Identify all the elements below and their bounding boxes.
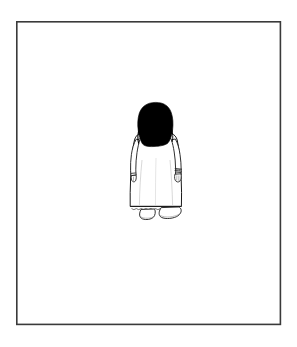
illustration-canvas	[0, 0, 297, 347]
hair	[138, 102, 173, 146]
left-hand	[131, 175, 136, 182]
left-cuff	[131, 173, 136, 174]
artwork-svg	[0, 0, 297, 347]
right-hand	[175, 174, 182, 182]
